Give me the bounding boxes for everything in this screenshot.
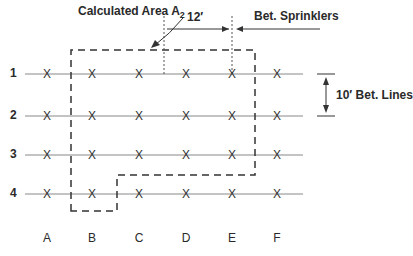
row-label-3: 3	[10, 147, 17, 161]
sprinkler-icon: X	[182, 68, 190, 80]
sprinkler-icon: X	[182, 110, 190, 122]
column-label-d: D	[182, 231, 191, 245]
arrowhead-right-icon	[222, 26, 229, 32]
sprinkler-icon: X	[228, 188, 236, 200]
sprinkler-icon: X	[88, 149, 96, 161]
sprinkler-icon: X	[88, 188, 96, 200]
sprinkler-icon: X	[182, 188, 190, 200]
column-label-f: F	[273, 231, 280, 245]
sprinkler-icon: X	[273, 149, 281, 161]
area-label-leader	[155, 18, 183, 45]
area-label: Calculated Area A2	[78, 4, 185, 20]
area-label-text: Calculated Area A	[78, 4, 180, 18]
sprinkler-spacing-label: Bet. Sprinklers	[254, 9, 339, 23]
sprinkler-icon: X	[135, 68, 143, 80]
sprinkler-icon: X	[135, 110, 143, 122]
row-label-1: 1	[10, 66, 17, 80]
branch-lines	[25, 74, 303, 194]
sprinkler-icon: X	[43, 149, 51, 161]
sprinkler-icon: X	[228, 149, 236, 161]
sprinkler-spacing-value: 12′	[187, 10, 203, 24]
row-label-4: 4	[10, 186, 17, 200]
arrowhead-down-icon	[323, 105, 329, 113]
column-label-b: B	[88, 231, 96, 245]
sprinkler-icon: X	[182, 149, 190, 161]
sprinkler-icon: X	[88, 110, 96, 122]
area-label-subscript: 2	[180, 10, 185, 20]
sprinkler-icon: X	[88, 68, 96, 80]
sprinkler-icon: X	[135, 188, 143, 200]
column-label-a: A	[43, 231, 51, 245]
sprinkler-icon: X	[43, 110, 51, 122]
sprinkler-icon: X	[273, 188, 281, 200]
sprinkler-icon: X	[135, 149, 143, 161]
sprinkler-icon: X	[228, 110, 236, 122]
sprinkler-icon: X	[43, 188, 51, 200]
sprinkler-icon: X	[273, 110, 281, 122]
sprinkler-icon: X	[43, 68, 51, 80]
sprinkler-icon: X	[228, 68, 236, 80]
column-label-e: E	[228, 231, 236, 245]
arrowhead-up-icon	[323, 77, 329, 85]
row-label-2: 2	[10, 108, 17, 122]
column-label-c: C	[135, 231, 144, 245]
sprinkler-icon: X	[273, 68, 281, 80]
arrowhead-down-left-icon	[151, 40, 160, 48]
line-spacing-label: 10′ Bet. Lines	[336, 88, 413, 102]
